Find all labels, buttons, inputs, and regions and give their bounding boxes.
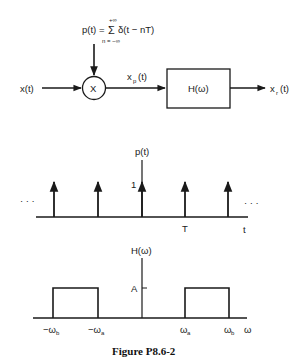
tick-neg-wb-sub: b	[56, 330, 60, 336]
sampling-signal-lhs: p(t) =	[82, 24, 105, 35]
output-label: x	[270, 83, 275, 94]
tick-wa-sub: a	[187, 330, 191, 336]
tick-neg-wa: −ω	[88, 324, 102, 335]
period-label: T	[182, 223, 188, 234]
filter-response-plot: H(ω) A −ω b −ω a ω a ω b ω	[33, 245, 252, 336]
multiplier-symbol: X	[90, 83, 97, 94]
sampled-signal-label: x	[127, 71, 132, 82]
sum-symbol: Σ	[108, 24, 115, 36]
sampled-signal-sub: p	[133, 78, 137, 84]
figure-caption: Figure P8.6-2	[112, 345, 176, 357]
passband-positive	[185, 288, 229, 318]
input-label: x(t)	[20, 83, 34, 94]
sampling-signal-term: δ(t − nT)	[118, 24, 154, 35]
output-arg: (t)	[280, 83, 289, 94]
tick-neg-wb: −ω	[43, 324, 57, 335]
p-plot-title: p(t)	[135, 146, 149, 157]
h-plot-title: H(ω)	[131, 245, 152, 256]
passband-negative	[53, 288, 98, 318]
tick-neg-wa-sub: a	[101, 330, 105, 336]
sum-lower-limit: n = −∞	[102, 38, 120, 44]
amplitude-label-A: A	[131, 283, 138, 294]
block-diagram: p(t) = +∞ Σ n = −∞ δ(t − nT) x(t) X x p …	[20, 17, 289, 108]
tick-wb-sub: b	[231, 330, 235, 336]
sampled-signal-arg: (t)	[138, 71, 147, 82]
figure-canvas: p(t) = +∞ Σ n = −∞ δ(t − nT) x(t) X x p …	[0, 0, 302, 362]
filter-block-label: H(ω)	[188, 83, 209, 94]
sum-upper-limit: +∞	[109, 17, 117, 23]
continuation-right: · · ·	[244, 197, 259, 208]
output-sub: r	[276, 90, 278, 96]
impulse-train-plot: p(t) 1 · · · · · · T t	[20, 146, 259, 235]
t-axis-label: t	[243, 224, 246, 235]
continuation-left: · · ·	[20, 195, 35, 206]
omega-axis-label: ω	[244, 324, 252, 335]
amplitude-label-1: 1	[131, 179, 136, 190]
